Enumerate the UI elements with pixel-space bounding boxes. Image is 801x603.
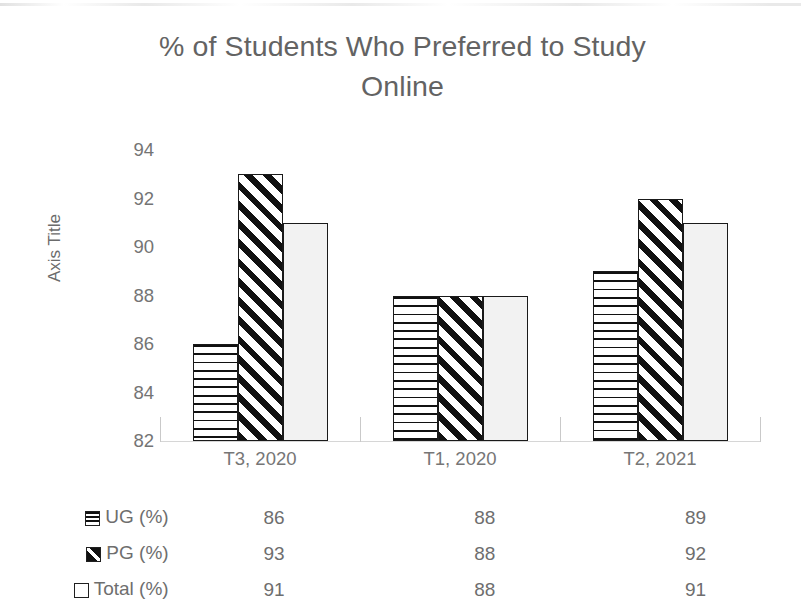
table-cell-1-1: 88 <box>379 536 590 572</box>
chart-title-line-1: % of Students Who Preferred to Study <box>95 26 710 66</box>
y-axis-tick-84: 84 <box>133 382 154 404</box>
table-cell-0-2: 89 <box>590 500 801 536</box>
scan-artifact <box>0 3 801 6</box>
bar-pg-1 <box>438 296 483 442</box>
bar-pg-0 <box>238 174 283 441</box>
table-cell-2-2: 91 <box>590 572 801 603</box>
data-table: T3, 2020T1, 2020T2, 2021UG (%)868889PG (… <box>0 478 801 603</box>
x-axis-tick-separator-1 <box>360 417 361 442</box>
bar-total-2 <box>683 223 728 441</box>
x-axis-tick-separator-edge-3 <box>760 417 761 442</box>
table-cell-0-0: 86 <box>169 500 380 536</box>
y-axis-tick-86: 86 <box>133 333 154 355</box>
table-cell-2-0: 91 <box>169 572 380 603</box>
legend-entry-0[interactable]: UG (%) <box>0 500 169 536</box>
bar-ug-1 <box>393 296 438 442</box>
bar-total-0 <box>283 223 328 441</box>
legend-entry-1[interactable]: PG (%) <box>0 536 169 572</box>
bar-ug-0 <box>193 344 238 441</box>
legend-label-2: Total (%) <box>94 578 169 600</box>
bar-total-1 <box>483 296 528 442</box>
x-axis-tick-separator-edge-0 <box>160 417 161 442</box>
table-cell-0-1: 88 <box>379 500 590 536</box>
chart-title: % of Students Who Preferred to Study Onl… <box>95 26 710 106</box>
x-axis-label-1: T1, 2020 <box>423 448 496 470</box>
legend-entry-2[interactable]: Total (%) <box>0 572 169 603</box>
table-row: PG (%)938892 <box>0 536 801 572</box>
x-axis-label-0: T3, 2020 <box>223 448 296 470</box>
y-axis-tick-94: 94 <box>133 139 154 161</box>
bar-ug-2 <box>593 271 638 441</box>
y-axis-title: Axis Title <box>45 188 65 308</box>
table-cell-1-0: 93 <box>169 536 380 572</box>
y-axis-tick-82: 82 <box>133 430 154 452</box>
swatch-solid-icon <box>74 583 89 598</box>
y-axis-tick-92: 92 <box>133 188 154 210</box>
y-axis-tick-88: 88 <box>133 285 154 307</box>
table-row: Total (%)918891 <box>0 572 801 603</box>
plot-area <box>160 150 760 441</box>
table-row: UG (%)868889 <box>0 500 801 536</box>
chart-title-line-2: Online <box>95 66 710 106</box>
x-axis-label-2: T2, 2021 <box>623 448 696 470</box>
legend-label-1: PG (%) <box>106 542 168 564</box>
y-axis-tick-90: 90 <box>133 236 154 258</box>
table-cell-2-1: 88 <box>379 572 590 603</box>
x-axis-tick-separator-2 <box>560 417 561 442</box>
y-axis-tick-labels: 94929088868482 <box>108 150 154 441</box>
x-axis-line <box>160 441 760 442</box>
swatch-diagonal-icon <box>86 547 101 562</box>
swatch-horizontal-icon <box>85 511 100 526</box>
bar-pg-2 <box>638 199 683 442</box>
table-cell-1-2: 92 <box>590 536 801 572</box>
legend-label-0: UG (%) <box>105 506 168 528</box>
